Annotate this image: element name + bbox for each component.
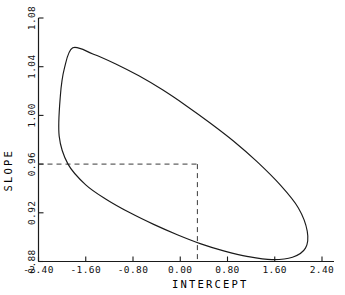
x-tick-label: 0.00 <box>168 264 192 275</box>
y-tick-label: 1.00 <box>26 103 37 127</box>
confidence-ellipse-plot: 0.880.920.961.001.041.08 -2.40-1.60-0.80… <box>0 0 345 295</box>
y-tick-label: 1.08 <box>26 6 37 30</box>
x-tick-label: -0.80 <box>118 264 149 275</box>
x-tick-label: -1.60 <box>70 264 101 275</box>
y-tick-label: 0.96 <box>26 152 37 176</box>
y-axis-title: SLOPE <box>2 149 14 192</box>
x-tick-label: 2.40 <box>310 264 334 275</box>
x-tick-label: 1.60 <box>263 264 287 275</box>
chart-container: 0.880.920.961.001.041.08 -2.40-1.60-0.80… <box>0 0 345 295</box>
y-tick-label: 0.92 <box>26 201 37 225</box>
plot-background <box>0 0 345 295</box>
x-axis-title: INTERCEPT <box>172 278 249 290</box>
x-tick-label: -2.40 <box>23 264 54 275</box>
x-tick-label: 0.80 <box>215 264 239 275</box>
y-tick-label: 1.04 <box>26 54 37 78</box>
